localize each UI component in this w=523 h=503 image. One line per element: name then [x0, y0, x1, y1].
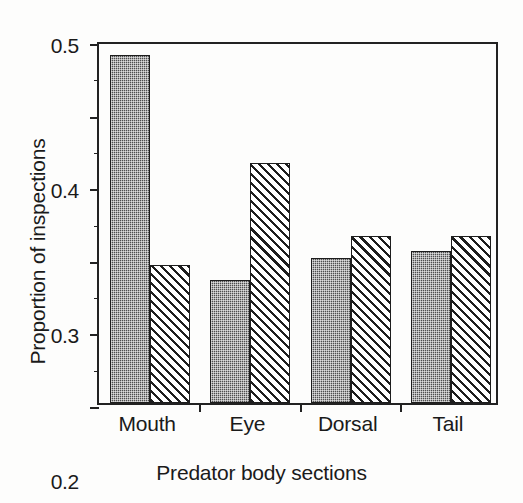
chart-figure: 0.00.10.20.30.40.5 Proportion of inspect… [0, 0, 523, 503]
plot-area: 0.00.10.20.30.40.5 [97, 42, 498, 405]
x-axis-title: Predator body sections [0, 461, 523, 485]
x-axis-category-label: Mouth [118, 412, 175, 436]
y-axis-tick: 0.5 [90, 44, 99, 46]
y-axis-minor-tick [94, 80, 99, 81]
x-axis-tick [400, 403, 402, 412]
bar-eye-diagonal-hatched [250, 163, 290, 403]
bar-eye-dark-stippled [210, 280, 250, 403]
y-axis-minor-tick [94, 153, 99, 154]
x-axis-category-label: Dorsal [318, 412, 377, 436]
y-axis-tick: 0.2 [90, 262, 99, 264]
bar-tail-dark-stippled [411, 251, 451, 403]
y-axis-minor-tick [94, 298, 99, 299]
y-axis-tick: 0.1 [90, 334, 99, 336]
bar-dorsal-dark-stippled [311, 258, 351, 403]
x-axis-category-label: Eye [230, 412, 266, 436]
y-axis-tick: 0.0 [90, 407, 99, 409]
x-axis-tick [199, 403, 201, 412]
bar-mouth-diagonal-hatched [150, 265, 190, 403]
bar-tail-diagonal-hatched [451, 236, 491, 403]
y-axis-minor-tick [94, 226, 99, 227]
bar-dorsal-diagonal-hatched [351, 236, 391, 403]
bar-mouth-dark-stippled [110, 55, 150, 403]
y-axis-minor-tick [94, 371, 99, 372]
y-axis-tick: 0.3 [90, 189, 99, 191]
x-axis-tick [300, 403, 302, 412]
y-axis-title: Proportion of inspections [18, 0, 58, 503]
y-axis-tick: 0.4 [90, 117, 99, 119]
x-axis-category-label: Tail [433, 412, 464, 436]
